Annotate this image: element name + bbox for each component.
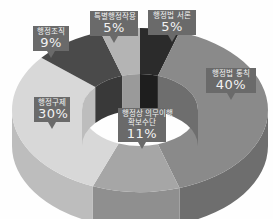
callout-intro: 행정법 서론 5%	[148, 10, 196, 35]
slice-inner-wall-0	[140, 74, 158, 112]
slice-percent: 40%	[210, 78, 252, 91]
slice-percent: 30%	[38, 107, 66, 120]
slice-percent: 9%	[37, 36, 65, 49]
callout-special: 특별행정작용 5%	[90, 11, 138, 36]
slice-percent: 5%	[152, 20, 192, 33]
slice-label-line1: 행정상 의무이행	[122, 109, 162, 118]
callout-organization: 행정조직 9%	[33, 26, 69, 51]
callout-general: 행정법 통칙 40%	[206, 68, 256, 93]
callout-remedy: 행정구제 30%	[34, 97, 70, 122]
slice-percent: 11%	[122, 127, 162, 140]
callout-enforcement: 행정상 의무이행 확보수단 11%	[118, 108, 166, 142]
slice-inner-wall-5	[122, 74, 140, 112]
slice-percent: 5%	[94, 21, 134, 34]
